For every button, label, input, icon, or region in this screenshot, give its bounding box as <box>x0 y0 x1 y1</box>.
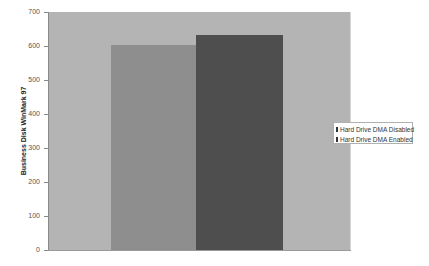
bar-dma-disabled <box>111 45 197 250</box>
y-tick-label: 600 <box>6 42 40 50</box>
y-tick <box>44 114 48 115</box>
y-tick <box>44 148 48 149</box>
y-tick <box>44 250 48 251</box>
y-tick <box>44 46 48 47</box>
y-tick-label: 700 <box>6 8 40 16</box>
y-tick <box>44 12 48 13</box>
y-tick-label: 200 <box>6 178 40 186</box>
y-tick <box>44 182 48 183</box>
legend-swatch-enabled <box>336 137 338 142</box>
y-tick <box>44 216 48 217</box>
bar-dma-enabled <box>196 35 283 250</box>
legend: Hard Drive DMA Disabled Hard Drive DMA E… <box>333 122 413 144</box>
y-tick-label: 500 <box>6 76 40 84</box>
legend-label-disabled: Hard Drive DMA Disabled <box>340 126 414 133</box>
y-tick-label: 0 <box>6 246 40 254</box>
legend-item-disabled: Hard Drive DMA Disabled <box>336 124 410 134</box>
x-axis <box>48 250 351 251</box>
y-axis-label: Business Disk WinMark 97 <box>20 87 27 176</box>
legend-swatch-disabled <box>336 127 338 132</box>
legend-item-enabled: Hard Drive DMA Enabled <box>336 134 410 144</box>
y-tick-label: 100 <box>6 212 40 220</box>
y-axis <box>48 12 49 251</box>
legend-label-enabled: Hard Drive DMA Enabled <box>340 136 413 143</box>
bar-chart: 0100200300400500600700 Business Disk Win… <box>0 0 429 266</box>
y-tick <box>44 80 48 81</box>
